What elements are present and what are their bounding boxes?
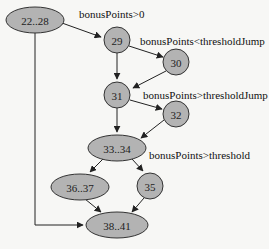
edge bbox=[85, 199, 101, 212]
edge-arrow bbox=[133, 71, 166, 88]
edge: bonusPoints>0 bbox=[62, 8, 145, 37]
graph-node: 32 bbox=[163, 101, 189, 127]
edge bbox=[141, 120, 164, 138]
graph-node: 29 bbox=[104, 27, 130, 53]
edge-label: bonusPoints>thresholdJump bbox=[143, 89, 268, 101]
edge: bonusPoints<thresholdJump bbox=[129, 35, 265, 57]
graph-node: 36..37 bbox=[51, 174, 109, 200]
graph-node: 22..28 bbox=[6, 7, 64, 33]
node-label: 32 bbox=[171, 109, 182, 121]
edge-arrow bbox=[141, 120, 164, 138]
edge-label: bonusPoints>threshold bbox=[149, 149, 250, 161]
graph-node: 30 bbox=[163, 49, 189, 75]
edge-label: bonusPoints<thresholdJump bbox=[140, 35, 265, 47]
node-label: 30 bbox=[171, 57, 183, 69]
edge-arrow bbox=[90, 159, 103, 172]
graph-node: 38..41 bbox=[86, 212, 148, 238]
edge-arrow bbox=[130, 100, 162, 109]
node-label: 35 bbox=[145, 181, 157, 193]
edge-arrow bbox=[85, 199, 101, 212]
edge-label: bonusPoints>0 bbox=[79, 8, 145, 20]
node-label: 38..41 bbox=[103, 220, 131, 232]
node-label: 22..28 bbox=[21, 15, 49, 27]
node-label: 29 bbox=[112, 35, 124, 47]
graph-node: 31 bbox=[104, 82, 130, 108]
edge bbox=[133, 71, 166, 88]
node-label: 36..37 bbox=[66, 182, 94, 194]
node-label: 33..34 bbox=[103, 143, 131, 155]
edge-arrow bbox=[132, 159, 143, 171]
edge-arrow bbox=[132, 198, 144, 212]
control-flow-diagram: bonusPoints>0bonusPoints<thresholdJumpbo… bbox=[0, 0, 269, 249]
edge: bonusPoints>threshold bbox=[132, 149, 250, 171]
edge bbox=[90, 159, 103, 172]
edge-arrow bbox=[129, 46, 163, 57]
node-label: 31 bbox=[112, 90, 123, 102]
graph-node: 33..34 bbox=[88, 135, 146, 161]
edge: bonusPoints>thresholdJump bbox=[130, 89, 268, 109]
edge-arrow bbox=[62, 23, 101, 37]
graph-node: 35 bbox=[137, 173, 163, 199]
edge bbox=[132, 198, 144, 212]
